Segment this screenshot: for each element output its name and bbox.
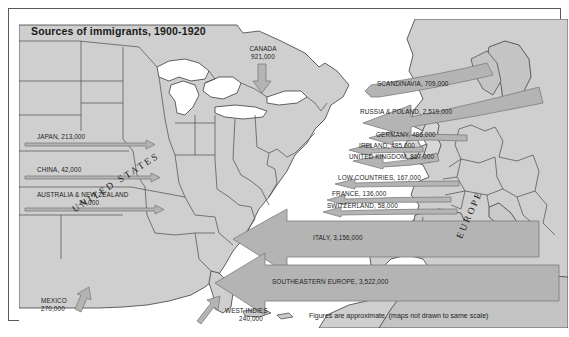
label-ireland: IRELAND, 485,000 (359, 142, 415, 150)
map-canvas: UNITED STATES EUROPE CANADA 921,000 JAPA… (19, 19, 568, 328)
label-germany: GERMANY, 486,000 (376, 131, 436, 139)
label-australia-nz-value: 24,000 (37, 199, 141, 207)
label-switzerland: SWITZERLAND, 58,000 (327, 202, 398, 210)
page-title: Sources of immigrants, 1900-1920 (31, 25, 206, 37)
footnote: Figures are approximate. (maps not drawn… (309, 312, 488, 319)
label-scandinavia: SCANDINAVIA, 709,000 (377, 80, 449, 88)
label-japan: JAPAN, 213,000 (37, 133, 85, 141)
label-china: CHINA, 42,000 (37, 166, 81, 174)
label-canada-value: 921,000 (234, 53, 292, 61)
label-low-countries: LOW COUNTRIES, 167,000 (338, 174, 421, 182)
map-frame: UNITED STATES EUROPE CANADA 921,000 JAPA… (8, 8, 561, 321)
label-russia-poland: RUSSIA & POLAND, 2,519,000 (360, 108, 452, 116)
label-france: FRANCE, 136,000 (332, 190, 386, 198)
map-screenshot: UNITED STATES EUROPE CANADA 921,000 JAPA… (0, 0, 569, 337)
label-united-kingdom: UNITED KINGDOM, 867,000 (349, 153, 434, 161)
label-mexico-value: 270,000 (41, 305, 65, 313)
label-se-europe: SOUTHEASTERN EUROPE, 3,522,000 (272, 278, 388, 286)
label-italy: ITALY, 3,156,000 (313, 234, 363, 242)
label-west-indies-value: 240,000 (225, 315, 277, 323)
